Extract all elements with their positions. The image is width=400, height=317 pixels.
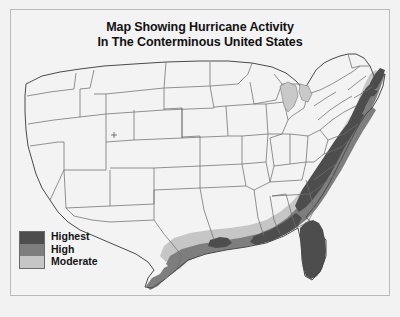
- legend-label-high: High: [51, 243, 123, 256]
- great-lakes: [280, 82, 312, 112]
- legend-swatch-highest: [20, 232, 44, 244]
- legend-label-column: Highest High Moderate: [51, 230, 123, 268]
- legend-label-moderate: Moderate: [51, 255, 123, 268]
- map-interior-mark: [111, 132, 117, 138]
- legend-swatch-column: [19, 231, 45, 269]
- legend-swatch-high: [20, 244, 44, 256]
- legend: Highest High Moderate: [19, 231, 123, 271]
- title-line-2: In The Conterminous United States: [0, 35, 400, 50]
- title-line-1: Map Showing Hurricane Activity: [0, 20, 400, 35]
- legend-label-highest: Highest: [51, 230, 123, 243]
- figure-root: Map Showing Hurricane Activity In The Co…: [0, 0, 400, 317]
- legend-swatch-moderate: [20, 256, 44, 268]
- page-title: Map Showing Hurricane Activity In The Co…: [0, 20, 400, 49]
